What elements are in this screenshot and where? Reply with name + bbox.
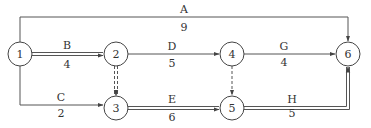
- activity-a: A 9: [20, 3, 348, 42]
- activity-h: H 5: [244, 67, 350, 120]
- activity-d-name: D: [168, 40, 177, 53]
- activity-b: B 4: [32, 39, 103, 71]
- network-diagram: A 9 B 4 C 2 D 5 E 6 G 4: [0, 0, 371, 128]
- node-3: 3: [104, 96, 128, 120]
- activity-g: G 4: [244, 40, 335, 69]
- activity-c: C 2: [20, 66, 103, 120]
- activity-e: E 6: [128, 93, 219, 124]
- node-2: 2: [104, 42, 128, 66]
- activity-b-name: B: [63, 39, 71, 52]
- activity-c-name: C: [57, 91, 65, 104]
- node-6: 6: [336, 42, 360, 66]
- activity-e-name: E: [168, 93, 176, 106]
- activity-e-duration: 6: [169, 111, 176, 124]
- activity-b-duration: 4: [64, 58, 71, 71]
- node-4-label: 4: [229, 48, 236, 61]
- node-1-label: 1: [17, 48, 24, 61]
- node-3-label: 3: [113, 102, 120, 115]
- activity-c-duration: 2: [58, 107, 65, 120]
- activity-d: D 5: [128, 40, 219, 70]
- node-4: 4: [220, 42, 244, 66]
- activity-a-duration: 9: [181, 21, 188, 34]
- node-5: 5: [220, 96, 244, 120]
- activity-h-name: H: [287, 93, 297, 106]
- activity-g-duration: 4: [281, 56, 288, 69]
- activity-g-name: G: [280, 40, 289, 53]
- activity-a-name: A: [179, 3, 189, 16]
- dummy-2-3: [115, 66, 118, 96]
- node-5-label: 5: [229, 102, 236, 115]
- activity-h-duration: 5: [289, 107, 296, 120]
- activity-d-duration: 5: [169, 57, 176, 70]
- node-2-label: 2: [113, 48, 120, 61]
- node-6-label: 6: [345, 48, 352, 61]
- node-1: 1: [8, 42, 32, 66]
